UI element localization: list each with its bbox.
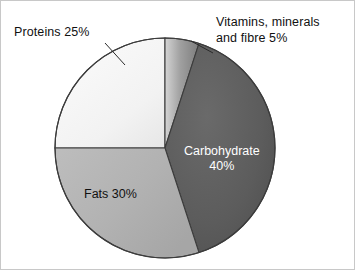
label-fats: Fats 30% [84,187,137,202]
label-fats-text: Fats 30% [84,187,137,202]
label-proteins-text: Proteins 25% [14,25,90,40]
label-vitamins-line1: Vitamins, minerals [216,14,346,30]
pie-chart-figure: Proteins 25% Vitamins, minerals and fibr… [0,0,355,270]
label-proteins: Proteins 25% [14,25,90,40]
label-vitamins-line2: and fibre 5% [216,30,346,46]
pie-slice-proteins[interactable] [55,38,165,148]
label-carbohydrate-line1: Carbohydrate [184,144,260,159]
label-carbohydrate-line2: 40% [184,159,260,174]
label-carbohydrate: Carbohydrate 40% [184,144,260,174]
label-vitamins: Vitamins, minerals and fibre 5% [216,14,346,46]
